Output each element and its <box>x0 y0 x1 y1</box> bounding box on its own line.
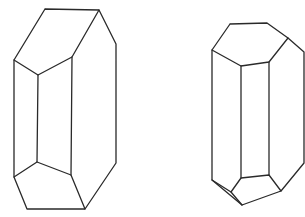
crystal-edge <box>71 57 72 175</box>
left-crystal <box>14 9 116 209</box>
crystal-drawing <box>0 0 305 217</box>
crystal-edge <box>212 38 288 66</box>
crystal-edge <box>212 23 304 205</box>
crystal-edge <box>37 75 38 162</box>
right-crystal <box>212 23 304 205</box>
crystal-edge <box>14 10 99 75</box>
crystal-figure <box>0 0 305 217</box>
crystal-edge <box>231 175 281 192</box>
crystal-edge <box>14 9 116 209</box>
